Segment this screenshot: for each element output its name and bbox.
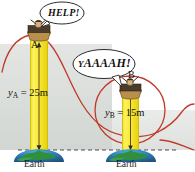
hair-a (35, 20, 42, 22)
bubble-yaaaah-rest: AAAAH! (84, 56, 131, 70)
scene-graphics (0, 0, 195, 172)
bubble-yaaaah-text: YAAAAH! (78, 57, 131, 69)
basket-b-body (120, 90, 141, 99)
height-eq-a: = (18, 87, 29, 98)
height-value-a: 25m (29, 87, 48, 98)
point-label-b: B (128, 70, 135, 80)
point-label-a: A (31, 40, 38, 50)
earth-label-a: Earth (24, 160, 45, 170)
height-label-a: yA = 25m (8, 88, 48, 99)
height-eq-b: = (115, 107, 126, 118)
height-label-b: yB = 15m (105, 108, 145, 119)
height-value-b: 15m (126, 107, 145, 118)
physics-figure-two-towers: HELP! YAAAAH! A B yA = 25m yB = 15m Eart… (0, 0, 195, 172)
earth-label-b: Earth (116, 160, 137, 170)
bubble-help-text: HELP! (48, 8, 80, 18)
